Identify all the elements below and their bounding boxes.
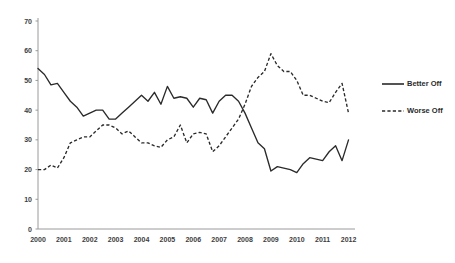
- x-tick-label-2001: 2001: [56, 236, 72, 243]
- series-line-better-off: [38, 69, 349, 173]
- legend-label-better-off: Better Off: [407, 79, 442, 88]
- y-tick-label: 10: [24, 196, 32, 203]
- y-tick-label: 40: [24, 107, 32, 114]
- x-tick-label-2008: 2008: [237, 236, 253, 243]
- legend-label-worse-off: Worse Off: [407, 106, 443, 115]
- x-tick-label-2012: 2012: [341, 236, 357, 243]
- series-line-worse-off: [38, 54, 349, 170]
- y-tick-label: 70: [24, 18, 32, 25]
- x-tick-label-2009: 2009: [263, 236, 279, 243]
- y-tick-label: 30: [24, 136, 32, 143]
- x-tick-label-2003: 2003: [108, 236, 124, 243]
- line-chart: 0102030405060702000200120022003200420052…: [0, 0, 455, 263]
- x-tick-label-2004: 2004: [134, 236, 150, 243]
- x-tick-label-2000: 2000: [30, 236, 46, 243]
- y-tick-label: 20: [24, 166, 32, 173]
- x-tick-label-2005: 2005: [160, 236, 176, 243]
- x-tick-label-2006: 2006: [185, 236, 201, 243]
- x-tick-label-2007: 2007: [211, 236, 227, 243]
- x-tick-label-2011: 2011: [315, 236, 330, 243]
- chart-container: 0102030405060702000200120022003200420052…: [0, 0, 455, 263]
- y-tick-label: 0: [28, 226, 32, 233]
- x-tick-label-2002: 2002: [82, 236, 98, 243]
- y-tick-label: 50: [24, 77, 32, 84]
- y-tick-label: 60: [24, 47, 32, 54]
- x-tick-label-2010: 2010: [289, 236, 305, 243]
